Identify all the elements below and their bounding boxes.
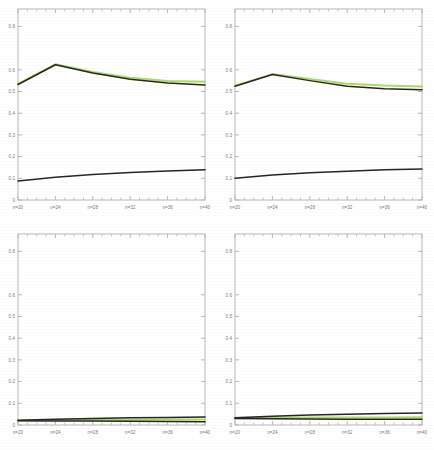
x-tick-label: n=28: [305, 205, 316, 210]
x-tick-label: n=20: [13, 430, 24, 435]
y-tick-label: 0.5: [226, 314, 233, 319]
y-tick-label: 0.8: [226, 249, 233, 254]
x-tick-label: n=40: [200, 430, 211, 435]
y-tick-label: 0.1: [9, 401, 16, 406]
series-group: [235, 413, 422, 419]
y-axis-tick-labels: 00.10.20.30.40.50.60.8: [226, 24, 233, 203]
y-tick-label: 0.6: [226, 68, 233, 73]
plot-svg-top-right: n=20n=24n=28n=32n=36n=4000.10.20.30.40.5…: [217, 0, 434, 225]
x-axis-ticks: [235, 234, 422, 425]
series-line: [235, 169, 422, 178]
y-tick-label: 0.3: [9, 133, 16, 138]
x-axis-tick-labels: n=20n=24n=28n=32n=36n=40: [13, 430, 211, 435]
plot-svg-bottom-left: n=20n=24n=28n=32n=36n=4000.10.20.30.40.5…: [0, 225, 217, 450]
axis-frame: [235, 234, 422, 425]
y-tick-label: 0.4: [226, 111, 233, 116]
series-line: [18, 64, 205, 84]
y-axis-ticks: [235, 251, 422, 425]
figure-canvas: n=20n=24n=28n=32n=36n=4000.10.20.30.40.5…: [0, 0, 434, 450]
y-tick-label: 0.5: [9, 314, 16, 319]
x-tick-label: n=32: [125, 205, 136, 210]
x-tick-label: n=28: [305, 430, 316, 435]
y-axis-ticks: [235, 26, 422, 200]
x-tick-label: n=20: [13, 205, 24, 210]
series-line: [235, 74, 422, 86]
y-tick-label: 0.1: [226, 176, 233, 181]
y-tick-label: 0: [229, 423, 232, 428]
x-tick-label: n=36: [162, 205, 173, 210]
y-tick-label: 0.5: [9, 89, 16, 94]
plot-panel-top-left: n=20n=24n=28n=32n=36n=4000.10.20.30.40.5…: [0, 0, 217, 225]
y-tick-label: 0.8: [226, 24, 233, 29]
x-tick-label: n=20: [230, 430, 241, 435]
y-tick-label: 0.6: [226, 293, 233, 298]
y-tick-label: 0.2: [226, 154, 233, 159]
series-group: [18, 64, 205, 181]
x-tick-label: n=40: [417, 430, 428, 435]
y-tick-label: 0.6: [9, 68, 16, 73]
series-line: [235, 418, 422, 419]
y-tick-label: 0.1: [226, 401, 233, 406]
x-tick-label: n=32: [342, 205, 353, 210]
y-tick-label: 0.2: [9, 379, 16, 384]
x-tick-label: n=36: [162, 430, 173, 435]
y-tick-label: 0.1: [9, 176, 16, 181]
plot-panel-bottom-right: n=20n=24n=28n=32n=36n=4000.10.20.30.40.5…: [217, 225, 434, 450]
x-axis-ticks: [18, 234, 205, 425]
y-tick-label: 0.4: [226, 336, 233, 341]
series-line: [18, 421, 205, 422]
y-tick-label: 0.8: [9, 24, 16, 29]
x-axis-tick-labels: n=20n=24n=28n=32n=36n=40: [230, 205, 428, 210]
y-tick-label: 0.2: [226, 379, 233, 384]
y-axis-ticks: [18, 251, 205, 425]
series-group: [235, 74, 422, 178]
y-tick-label: 0.4: [9, 336, 16, 341]
y-tick-label: 0.2: [9, 154, 16, 159]
y-tick-label: 0: [12, 198, 15, 203]
y-tick-label: 0: [12, 423, 15, 428]
plot-panel-top-right: n=20n=24n=28n=32n=36n=4000.10.20.30.40.5…: [217, 0, 434, 225]
x-tick-label: n=36: [379, 205, 390, 210]
x-tick-label: n=32: [342, 430, 353, 435]
x-axis-tick-labels: n=20n=24n=28n=32n=36n=40: [13, 205, 211, 210]
x-axis-tick-labels: n=20n=24n=28n=32n=36n=40: [230, 430, 428, 435]
y-tick-label: 0.3: [226, 358, 233, 363]
x-tick-label: n=24: [50, 430, 61, 435]
y-axis-tick-labels: 00.10.20.30.40.50.60.8: [9, 249, 16, 428]
x-tick-label: n=32: [125, 430, 136, 435]
x-tick-label: n=28: [88, 205, 99, 210]
y-tick-label: 0.6: [9, 293, 16, 298]
x-tick-label: n=24: [267, 205, 278, 210]
x-tick-label: n=40: [200, 205, 211, 210]
y-axis-tick-labels: 00.10.20.30.40.50.60.8: [226, 249, 233, 428]
y-tick-label: 0.3: [9, 358, 16, 363]
x-tick-label: n=28: [88, 430, 99, 435]
plot-panel-bottom-left: n=20n=24n=28n=32n=36n=4000.10.20.30.40.5…: [0, 225, 217, 450]
y-tick-label: 0.4: [9, 111, 16, 116]
plot-svg-bottom-right: n=20n=24n=28n=32n=36n=4000.10.20.30.40.5…: [217, 225, 434, 450]
y-tick-label: 0: [229, 198, 232, 203]
x-tick-label: n=24: [267, 430, 278, 435]
x-tick-label: n=40: [417, 205, 428, 210]
plot-svg-top-left: n=20n=24n=28n=32n=36n=4000.10.20.30.40.5…: [0, 0, 217, 225]
x-tick-label: n=36: [379, 430, 390, 435]
y-tick-label: 0.8: [9, 249, 16, 254]
axis-frame: [18, 234, 205, 425]
series-group: [18, 417, 205, 422]
x-tick-label: n=24: [50, 205, 61, 210]
y-tick-label: 0.5: [226, 89, 233, 94]
y-axis-tick-labels: 00.10.20.30.40.50.60.8: [9, 24, 16, 203]
x-tick-label: n=20: [230, 205, 241, 210]
series-line: [18, 170, 205, 181]
y-tick-label: 0.3: [226, 133, 233, 138]
